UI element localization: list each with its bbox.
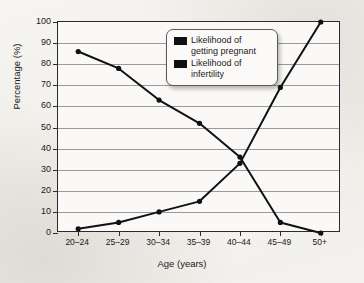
legend-label-line2: infertility xyxy=(191,69,224,79)
y-tick-label: 30 xyxy=(41,164,51,173)
y-tick-label: 50 xyxy=(41,122,51,131)
legend-label-line2: getting pregnant xyxy=(191,46,256,56)
y-tick-label: 40 xyxy=(41,143,51,152)
y-tick-label: 70 xyxy=(41,80,51,89)
legend-swatch-icon xyxy=(174,37,187,45)
legend-item-infertility: Likelihood of infertility xyxy=(174,58,271,79)
y-tick-label: 10 xyxy=(41,206,51,215)
y-tick-label: 0 xyxy=(46,228,51,237)
x-tick-label: 50+ xyxy=(313,237,327,247)
data-point-marker xyxy=(197,199,202,204)
data-point-marker xyxy=(116,220,121,225)
y-tick-label: 80 xyxy=(41,59,51,68)
data-point-marker xyxy=(156,97,161,102)
y-tick-label: 100 xyxy=(36,17,51,26)
data-point-marker xyxy=(278,85,283,90)
y-tick-label: 60 xyxy=(41,101,51,110)
chart-figure: 0102030405060708090100 Percentage (%) 20… xyxy=(0,0,364,283)
data-point-marker xyxy=(237,161,242,166)
y-axis-title: Percentage (%) xyxy=(11,17,22,137)
legend-item-label: Likelihood of getting pregnant xyxy=(191,35,256,56)
x-tick-label: 30–34 xyxy=(146,237,170,247)
x-axis-title: Age (years) xyxy=(0,258,364,269)
data-point-marker xyxy=(156,209,161,214)
legend-label-line1: Likelihood of xyxy=(191,35,242,45)
data-point-marker xyxy=(197,121,202,126)
legend-label-line1: Likelihood of xyxy=(191,58,242,68)
legend-swatch-icon xyxy=(174,60,187,68)
data-point-marker xyxy=(76,49,81,54)
data-point-marker xyxy=(76,226,81,231)
x-tick-label: 20–24 xyxy=(65,237,89,247)
x-tick-label: 25–29 xyxy=(106,237,130,247)
legend-item-label: Likelihood of infertility xyxy=(191,58,242,79)
data-point-marker xyxy=(116,66,121,71)
data-point-marker xyxy=(278,220,283,225)
y-axis-tick-labels: 0102030405060708090100 xyxy=(18,21,51,232)
y-tick-mark xyxy=(53,233,58,234)
chart-legend: Likelihood of getting pregnant Likelihoo… xyxy=(166,29,278,86)
x-tick-label: 45–49 xyxy=(268,237,292,247)
x-tick-label: 40–44 xyxy=(227,237,251,247)
legend-item-getting-pregnant: Likelihood of getting pregnant xyxy=(174,35,271,56)
data-point-marker xyxy=(318,230,323,235)
x-tick-label: 35–39 xyxy=(187,237,211,247)
data-point-marker xyxy=(318,19,323,24)
y-tick-label: 20 xyxy=(41,185,51,194)
y-tick-label: 90 xyxy=(41,38,51,47)
